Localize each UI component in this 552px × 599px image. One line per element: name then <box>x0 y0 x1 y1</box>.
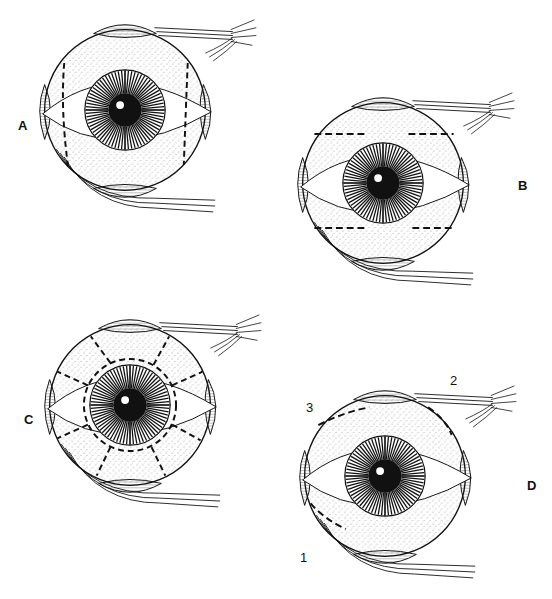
number-label-1: 1 <box>300 550 307 565</box>
panel-b-eye <box>298 93 515 285</box>
number-label-2: 2 <box>450 373 457 388</box>
panel-d-eye <box>300 386 517 578</box>
panel-label-d: D <box>527 478 536 493</box>
panel-label-b: B <box>518 178 527 193</box>
panel-a-eye <box>40 20 257 212</box>
panel-label-a: A <box>18 118 27 133</box>
panel-c-eye <box>45 315 262 507</box>
number-label-3: 3 <box>306 400 313 415</box>
eye-diagram-figure: // generate iris rays once inside the de… <box>0 0 552 599</box>
panel-label-c: C <box>24 412 33 427</box>
